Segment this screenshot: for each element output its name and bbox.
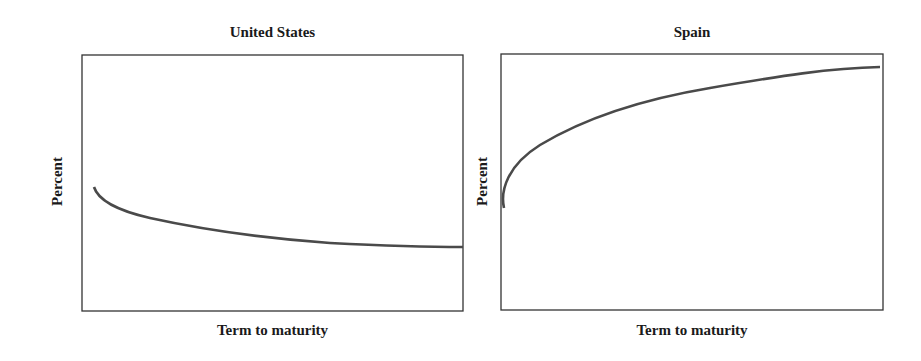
plot-area	[0, 0, 470, 361]
plot-area	[450, 0, 921, 361]
chart-panel-united-states: United States Percent Term to maturity	[0, 0, 470, 361]
chart-panel-spain: Spain Percent Term to maturity	[450, 0, 921, 361]
plot-frame	[82, 55, 463, 311]
yield-curve-line	[94, 187, 463, 247]
yield-curve-line	[503, 67, 880, 208]
